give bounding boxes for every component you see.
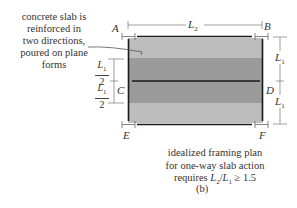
caption-line: for one-way slab action	[150, 160, 280, 173]
caption-line-ratio: requires L2/L1 ≥ 1.5	[150, 172, 280, 189]
dimension-line-L1-half-left	[108, 59, 124, 103]
point-label-E: E	[123, 130, 130, 141]
dimension-label-L1-bottom: L1	[275, 96, 285, 112]
slab-band-bottom-light	[128, 103, 263, 123]
figure-sublabel: (b)	[196, 183, 208, 194]
dimension-label-L2: L2	[188, 19, 198, 35]
dimension-label-L1-half-bottom: L1 2	[95, 83, 109, 110]
slab-band-top-light	[128, 38, 263, 59]
point-label-B: B	[264, 21, 271, 32]
caption-line: idealized framing plan	[150, 147, 280, 160]
dimension-label-L1-top: L1	[275, 52, 285, 68]
point-label-F: F	[259, 130, 266, 141]
figure-caption: idealized framing plan for one-way slab …	[150, 147, 280, 189]
point-label-D: D	[266, 85, 274, 96]
point-label-A: A	[112, 23, 119, 34]
point-label-C: C	[117, 85, 124, 96]
